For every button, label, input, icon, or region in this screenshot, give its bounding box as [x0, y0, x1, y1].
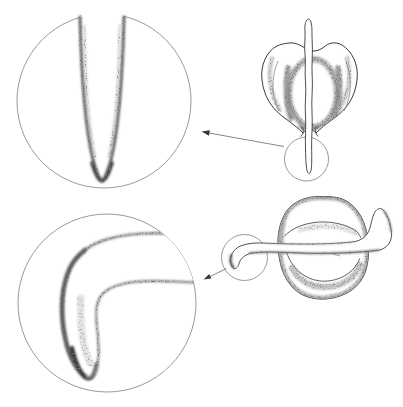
figure-svg	[0, 0, 403, 407]
illustration-page	[0, 0, 403, 407]
radicle-upright	[305, 19, 313, 173]
panel-germinating-seed-upright	[202, 19, 358, 181]
root-tip-straight	[80, 10, 124, 181]
callout-arrow-bottom	[204, 269, 227, 280]
panel-magnified-root-tip-straight	[17, 10, 191, 188]
root-tip-straight-body	[80, 10, 124, 181]
panel-germinating-seed-horizontal	[204, 196, 392, 299]
panel-magnified-root-tip-curved	[18, 214, 198, 392]
callout-circle-bottom	[222, 235, 268, 281]
arrow-head-top	[202, 130, 210, 136]
arrow-head-bottom	[204, 274, 212, 280]
callout-arrow-top	[202, 130, 285, 146]
